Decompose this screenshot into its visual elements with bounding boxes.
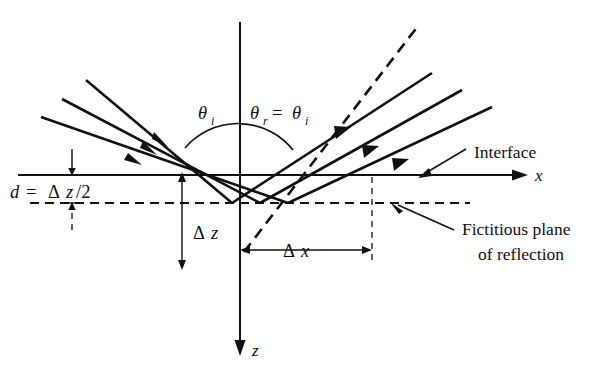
reflected-ray-3-arrowhead-icon [392,158,409,171]
reflected-ray-2-arrowhead-icon [362,145,379,158]
d-label-symbol: d [10,182,20,202]
delta-z-dimension-group [178,172,186,270]
ray-reflection-diagram: θ i θ r = θ i Interface x z d = Δ z /2 Δ… [0,0,593,371]
fictitious-leader-line [398,205,454,230]
delta-x-label-delta: Δ [283,241,295,261]
incident-ray-2 [62,99,260,203]
theta-r-eq-theta-i-second-subscript: i [305,114,308,128]
reflected-ray-3 [288,107,492,203]
d-label-z: z [65,182,73,202]
interface-label: Interface [474,142,536,162]
incident-ray-1-arrowhead-icon [152,132,168,147]
theta-i-subscript: i [211,114,214,128]
delta-x-label-x: x [300,241,310,261]
d-label-half: /2 [76,182,90,202]
delta-z-label-z: z [210,223,218,243]
theta-equals-sign: = [272,103,282,123]
figure-root: θ i θ r = θ i Interface x z d = Δ z /2 Δ… [0,0,593,371]
d-label-delta: Δ [48,182,60,202]
interface-leader-arrowhead-icon [418,168,432,178]
fictitious-plane-label-line2: of reflection [478,244,564,264]
z-axis-label: z [251,341,259,360]
theta-r-subscript: r [263,114,268,128]
x-axis-arrowhead-icon [512,170,528,181]
fictitious-plane-label-line1: Fictitious plane [462,219,571,239]
delta-z-upper-arrowhead-icon [178,172,186,182]
theta-r-eq-theta-i-second-theta: θ [292,103,301,123]
delta-x-left-arrowhead-icon [240,246,250,254]
reflected-beam-group [232,73,492,203]
z-axis-arrowhead-icon [235,340,246,356]
delta-x-right-arrowhead-icon [362,246,372,254]
d-label-equals: = [26,182,36,202]
theta-r-label: θ [250,103,259,123]
axes-group [18,22,528,356]
delta-z-lower-arrowhead-icon [178,260,186,270]
text-labels-group: θ i θ r = θ i Interface x z d = Δ z /2 Δ… [10,103,571,360]
incident-ray-3-arrowhead-icon [124,153,142,165]
theta-i-label: θ [198,103,207,123]
interface-leader-line [424,149,466,174]
x-axis-label: x [534,166,543,185]
delta-z-label-delta: Δ [193,223,205,243]
